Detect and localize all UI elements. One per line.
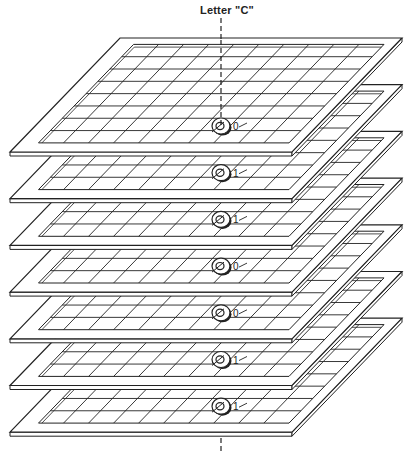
- bit-label-2: 1: [233, 168, 239, 179]
- bit-label-4: 0: [233, 261, 239, 272]
- bit-label-1: 0: [233, 121, 239, 132]
- bit-label-6: 1: [233, 355, 239, 366]
- memory-planes: 1100110: [10, 38, 402, 436]
- bit-label-5: 0: [233, 308, 239, 319]
- bit-label-3: 1: [233, 214, 239, 225]
- core-memory-stack-diagram: 1100110: [0, 0, 412, 455]
- bit-label-7: 1: [233, 401, 239, 412]
